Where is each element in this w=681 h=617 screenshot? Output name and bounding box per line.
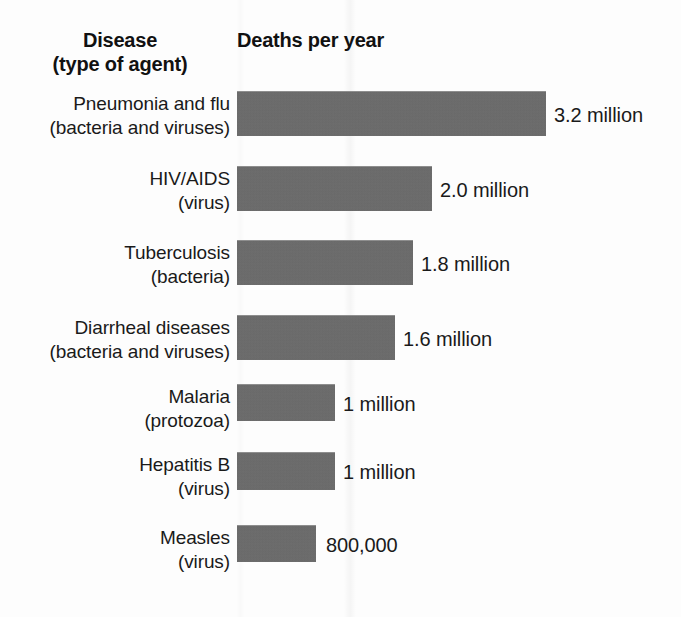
row-label-agent: (bacteria and viruses)	[0, 116, 230, 140]
row-label-disease: Measles	[160, 527, 230, 548]
row-label-agent: (bacteria and viruses)	[0, 340, 230, 364]
bar-value-diarrheal: 1.6 million	[403, 328, 492, 350]
bar-hepatitis-b	[237, 452, 335, 490]
column-header-deaths: Deaths per year	[237, 28, 537, 52]
row-label-disease: HIV/AIDS	[150, 168, 231, 189]
row-label-disease: Pneumonia and flu	[73, 93, 230, 114]
bar-chart-figure: Disease (type of agent) Deaths per year …	[0, 0, 681, 617]
bar-tuberculosis	[237, 240, 413, 285]
column-header-deaths-label: Deaths per year	[237, 28, 384, 52]
column-header-disease-line2: (type of agent)	[10, 52, 230, 76]
row-label-disease: Malaria	[168, 386, 230, 407]
bar-value-hiv-aids: 2.0 million	[440, 179, 529, 201]
bar-measles	[237, 525, 316, 562]
bar-malaria	[237, 384, 335, 421]
bar-value-measles: 800,000	[326, 534, 398, 556]
row-label-agent: (virus)	[0, 477, 230, 501]
bar-pneumonia	[237, 91, 546, 136]
bar-value-pneumonia: 3.2 million	[554, 104, 643, 126]
bar-diarrheal	[237, 315, 395, 360]
bar-hiv-aids	[237, 166, 432, 211]
row-label-malaria: Malaria (protozoa)	[0, 385, 230, 433]
row-label-agent: (virus)	[0, 550, 230, 574]
row-label-agent: (protozoa)	[0, 409, 230, 433]
row-label-disease: Tuberculosis	[124, 242, 230, 263]
bar-value-malaria: 1 million	[343, 393, 415, 415]
row-label-measles: Measles (virus)	[0, 526, 230, 574]
row-label-pneumonia: Pneumonia and flu (bacteria and viruses)	[0, 92, 230, 140]
column-header-disease: Disease (type of agent)	[10, 28, 230, 76]
row-label-diarrheal: Diarrheal diseases (bacteria and viruses…	[0, 316, 230, 364]
column-header-disease-line1: Disease	[10, 28, 230, 52]
row-label-disease: Hepatitis B	[139, 454, 230, 475]
row-label-agent: (bacteria)	[0, 265, 230, 289]
row-label-hiv-aids: HIV/AIDS (virus)	[0, 167, 230, 215]
row-label-hepatitis-b: Hepatitis B (virus)	[0, 453, 230, 501]
bar-value-hepatitis-b: 1 million	[343, 461, 415, 483]
bar-value-tuberculosis: 1.8 million	[421, 253, 510, 275]
row-label-disease: Diarrheal diseases	[74, 317, 230, 338]
row-label-tuberculosis: Tuberculosis (bacteria)	[0, 241, 230, 289]
row-label-agent: (virus)	[0, 191, 230, 215]
